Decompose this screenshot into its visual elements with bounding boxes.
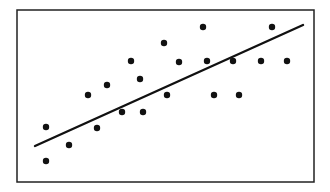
data-point [204,58,210,64]
data-point [161,40,167,46]
data-point [85,92,91,98]
data-point [119,109,125,115]
data-point [284,58,290,64]
data-point [176,59,182,65]
data-point [43,124,49,130]
data-point [200,24,206,30]
data-point [140,109,146,115]
data-point [137,76,143,82]
data-point [236,92,242,98]
data-points [43,24,290,164]
data-point [269,24,275,30]
data-point [258,58,264,64]
data-point [164,92,170,98]
data-point [66,142,72,148]
data-point [94,125,100,131]
data-point [211,92,217,98]
data-point [43,158,49,164]
data-point [128,58,134,64]
regression-line [35,25,303,146]
data-point [104,82,110,88]
scatter-plot [0,0,330,192]
